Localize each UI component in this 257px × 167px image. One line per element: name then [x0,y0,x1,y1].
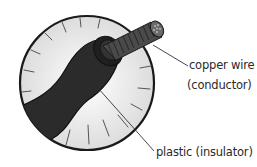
conductor-label-line1: copper wire [189,60,254,72]
conductor-leader [153,45,188,66]
conductor-label-line2: (conductor) [187,80,252,92]
insulator-label: plastic (insulator) [156,147,253,159]
